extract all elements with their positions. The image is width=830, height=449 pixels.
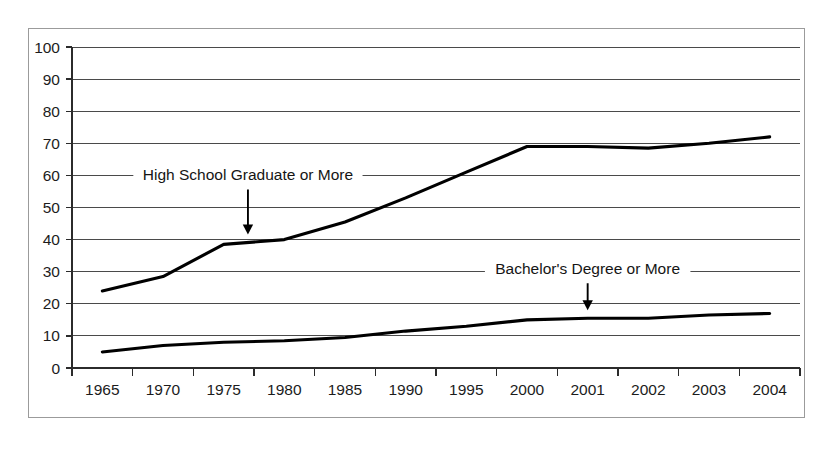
y-tick-label-30: 30 bbox=[43, 263, 61, 280]
x-tick-label-1985: 1985 bbox=[328, 381, 362, 398]
chart-annotations: High School Graduate or MoreBachelor's D… bbox=[133, 166, 690, 310]
x-tick-label-1965: 1965 bbox=[85, 381, 119, 398]
bachelors-annotation-arrow-head bbox=[582, 300, 592, 310]
bachelors-annotation-label: Bachelor's Degree or More bbox=[495, 260, 680, 277]
x-tick-label-1995: 1995 bbox=[449, 381, 483, 398]
y-axis bbox=[66, 47, 72, 368]
y-tick-label-70: 70 bbox=[43, 135, 61, 152]
x-tick-label-2001: 2001 bbox=[570, 381, 604, 398]
x-tick-label-2000: 2000 bbox=[510, 381, 545, 398]
hs-annotation: High School Graduate or More bbox=[133, 166, 362, 234]
x-tick-label-1980: 1980 bbox=[267, 381, 302, 398]
y-axis-tick-labels: 0102030405060708090100 bbox=[34, 39, 60, 377]
y-tick-label-90: 90 bbox=[43, 71, 61, 88]
y-tick-label-20: 20 bbox=[43, 295, 61, 312]
hs-annotation-label: High School Graduate or More bbox=[143, 166, 353, 183]
x-axis-tick-labels: 1965197019751980198519901995200020012002… bbox=[85, 381, 787, 398]
y-tick-label-60: 60 bbox=[43, 167, 61, 184]
y-tick-label-100: 100 bbox=[34, 39, 60, 56]
bachelors-annotation: Bachelor's Degree or More bbox=[485, 260, 690, 310]
gridlines bbox=[72, 47, 800, 368]
x-axis bbox=[72, 368, 800, 376]
x-tick-label-2004: 2004 bbox=[752, 381, 787, 398]
x-tick-label-1990: 1990 bbox=[388, 381, 423, 398]
y-tick-label-80: 80 bbox=[43, 103, 61, 120]
y-tick-label-10: 10 bbox=[43, 327, 61, 344]
x-tick-label-1975: 1975 bbox=[206, 381, 240, 398]
y-tick-label-0: 0 bbox=[51, 360, 60, 377]
chart-figure: 0102030405060708090100 19651970197519801… bbox=[0, 0, 830, 449]
line-chart: 0102030405060708090100 19651970197519801… bbox=[0, 0, 830, 449]
x-tick-label-2002: 2002 bbox=[631, 381, 665, 398]
x-tick-label-1970: 1970 bbox=[146, 381, 181, 398]
y-tick-label-50: 50 bbox=[43, 199, 61, 216]
hs-annotation-arrow-head bbox=[243, 224, 253, 234]
x-tick-label-2003: 2003 bbox=[692, 381, 726, 398]
y-tick-label-40: 40 bbox=[43, 231, 61, 248]
series-line-bachelors bbox=[102, 313, 769, 352]
